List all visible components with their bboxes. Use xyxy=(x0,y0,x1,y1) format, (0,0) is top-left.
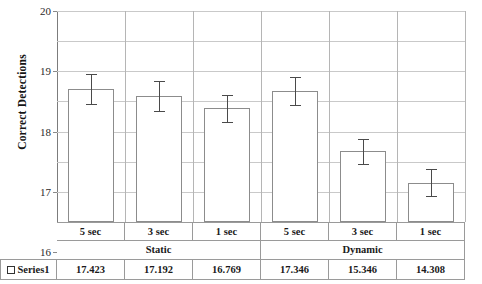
error-cap-3-bottom xyxy=(290,105,301,106)
table-value-0: 17.423 xyxy=(57,259,125,280)
error-cap-1-bottom xyxy=(154,111,165,112)
error-cap-5-top xyxy=(426,169,437,170)
error-cap-4-top xyxy=(358,139,369,140)
category-separator-4 xyxy=(329,11,330,222)
error-bar-0 xyxy=(91,74,92,104)
table-corner-blank xyxy=(0,222,57,241)
table-groupheader-1: Dynamic xyxy=(261,241,465,260)
error-cap-3-top xyxy=(290,77,301,78)
y-axis-title: Correct Detections xyxy=(16,22,28,182)
legend-series-cell: Series1 xyxy=(0,259,57,280)
error-cap-1-top xyxy=(154,81,165,82)
bar-1 xyxy=(136,96,182,222)
error-bar-4 xyxy=(363,139,364,164)
legend-series-label: Series1 xyxy=(17,260,49,280)
table-subheader-4: 3 sec xyxy=(329,222,397,241)
error-cap-2-top xyxy=(222,95,233,96)
error-bar-2 xyxy=(227,95,228,123)
y-tick-label-18: 18 xyxy=(40,126,51,138)
category-separator-5 xyxy=(397,11,398,222)
category-separator-2 xyxy=(193,11,194,222)
y-tick-20 xyxy=(53,11,57,12)
error-cap-2-bottom xyxy=(222,122,233,123)
plot-area: 2019181716151413 xyxy=(57,11,465,222)
table-value-5: 14.308 xyxy=(397,259,465,280)
table-value-3: 17.346 xyxy=(261,259,329,280)
chart-root: Correct Detections 2019181716151413 5 se… xyxy=(0,0,482,284)
error-cap-0-bottom xyxy=(86,104,97,105)
legend-swatch-icon xyxy=(7,266,15,274)
bar-0 xyxy=(68,89,114,222)
table-row-subheaders: 5 sec3 sec1 sec5 sec3 sec1 sec xyxy=(0,222,482,241)
table-row-groupheaders: StaticDynamic xyxy=(0,241,482,259)
y-tick-18 xyxy=(53,132,57,133)
table-groupheader-0: Static xyxy=(57,241,261,260)
data-table: 5 sec3 sec1 sec5 sec3 sec1 sec StaticDyn… xyxy=(0,222,482,280)
table-corner-blank-2 xyxy=(0,241,57,259)
y-tick-label-20: 20 xyxy=(40,5,51,17)
error-bar-5 xyxy=(431,169,432,196)
error-cap-5-bottom xyxy=(426,196,437,197)
error-bar-1 xyxy=(159,81,160,111)
table-row-values: Series1 17.42317.19216.76917.34615.34614… xyxy=(0,259,482,280)
category-separator-1 xyxy=(125,11,126,222)
table-value-1: 17.192 xyxy=(125,259,193,280)
error-cap-4-bottom xyxy=(358,164,369,165)
table-subheader-0: 5 sec xyxy=(57,222,125,241)
y-tick-label-19: 19 xyxy=(40,65,51,77)
table-subheader-1: 3 sec xyxy=(125,222,193,241)
table-subheader-3: 5 sec xyxy=(261,222,329,241)
table-value-4: 15.346 xyxy=(329,259,397,280)
bar-2 xyxy=(204,108,250,222)
category-separator-3 xyxy=(261,11,262,222)
table-subheader-5: 1 sec xyxy=(397,222,465,241)
error-cap-0-top xyxy=(86,74,97,75)
category-separator-end xyxy=(465,11,466,222)
table-value-2: 16.769 xyxy=(193,259,261,280)
table-subheader-2: 1 sec xyxy=(193,222,261,241)
y-tick-19 xyxy=(53,71,57,72)
error-bar-3 xyxy=(295,77,296,104)
bar-3 xyxy=(272,91,318,222)
y-tick-17 xyxy=(53,192,57,193)
y-tick-label-17: 17 xyxy=(40,186,51,198)
